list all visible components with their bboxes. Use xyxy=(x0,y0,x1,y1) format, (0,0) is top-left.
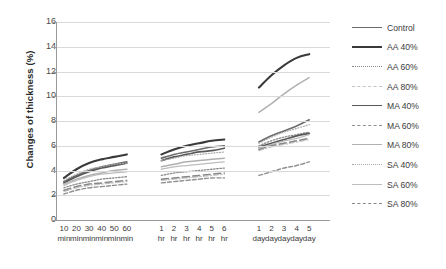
legend-line-icon xyxy=(352,140,382,150)
grid-line xyxy=(57,72,330,73)
grid-line xyxy=(57,171,330,172)
legend-item[interactable]: MA 40% xyxy=(352,96,446,116)
grid-line xyxy=(57,96,330,97)
legend-line-icon xyxy=(352,62,382,72)
legend-item[interactable]: MA 80% xyxy=(352,136,446,156)
y-axis-ticks: 0246810121416 xyxy=(0,0,56,199)
chart-legend: ControlAA 40%AA 60%AA 80%MA 40%MA 60%MA … xyxy=(352,18,446,214)
legend-line-icon xyxy=(352,82,382,92)
x-tick-label: 6hr xyxy=(209,224,239,243)
legend-line-icon xyxy=(352,23,382,33)
series-line xyxy=(161,146,224,158)
y-tick-label: 14 xyxy=(34,41,56,51)
y-tick-label: 4 xyxy=(34,165,56,175)
legend-item[interactable]: SA 80% xyxy=(352,194,446,214)
grid-line xyxy=(57,195,330,196)
legend-label: SA 60% xyxy=(382,180,418,190)
y-tick-label: 16 xyxy=(34,16,56,26)
y-tick-label: 0 xyxy=(34,214,56,224)
legend-item[interactable]: AA 80% xyxy=(352,77,446,97)
y-tick-label: 8 xyxy=(34,115,56,125)
legend-item[interactable]: MA 60% xyxy=(352,116,446,136)
y-tick-label: 10 xyxy=(34,90,56,100)
legend-line-icon xyxy=(352,42,382,52)
legend-line-icon xyxy=(352,180,382,190)
legend-label: MA 40% xyxy=(382,101,419,111)
legend-item[interactable]: AA 60% xyxy=(352,57,446,77)
series-line xyxy=(161,178,224,183)
x-axis-line xyxy=(56,220,330,221)
x-axis-labels: 10min20min30min40min50min60min1hr2hr3hr4… xyxy=(57,224,330,254)
legend-item[interactable]: Control xyxy=(352,18,446,38)
series-line xyxy=(259,78,309,113)
legend-item[interactable]: AA 40% xyxy=(352,38,446,58)
legend-label: MA 60% xyxy=(382,121,419,131)
legend-label: SA 40% xyxy=(382,160,418,170)
grid-line xyxy=(57,121,330,122)
legend-line-icon xyxy=(352,160,382,170)
grid-line xyxy=(57,146,330,147)
legend-label: AA 60% xyxy=(382,62,418,72)
legend-line-icon xyxy=(352,121,382,131)
legend-item[interactable]: SA 40% xyxy=(352,155,446,175)
legend-line-icon xyxy=(352,199,382,209)
y-tick-label: 6 xyxy=(34,140,56,150)
legend-label: Control xyxy=(382,23,415,33)
legend-label: AA 80% xyxy=(382,82,418,92)
legend-label: AA 40% xyxy=(382,42,418,52)
y-tick-label: 2 xyxy=(34,189,56,199)
grid-line xyxy=(57,22,330,23)
plot-area xyxy=(57,22,330,220)
legend-label: SA 80% xyxy=(382,199,418,209)
chart-container: Changes of thickness (%) 0246810121416 1… xyxy=(0,0,446,269)
grid-line xyxy=(57,47,330,48)
x-tick-label: 60min xyxy=(112,224,142,243)
y-tick-label: 12 xyxy=(34,66,56,76)
legend-label: MA 80% xyxy=(382,140,419,150)
series-line xyxy=(259,162,309,176)
x-tick-label: 5day xyxy=(294,224,324,243)
legend-line-icon xyxy=(352,101,382,111)
legend-item[interactable]: SA 60% xyxy=(352,175,446,195)
